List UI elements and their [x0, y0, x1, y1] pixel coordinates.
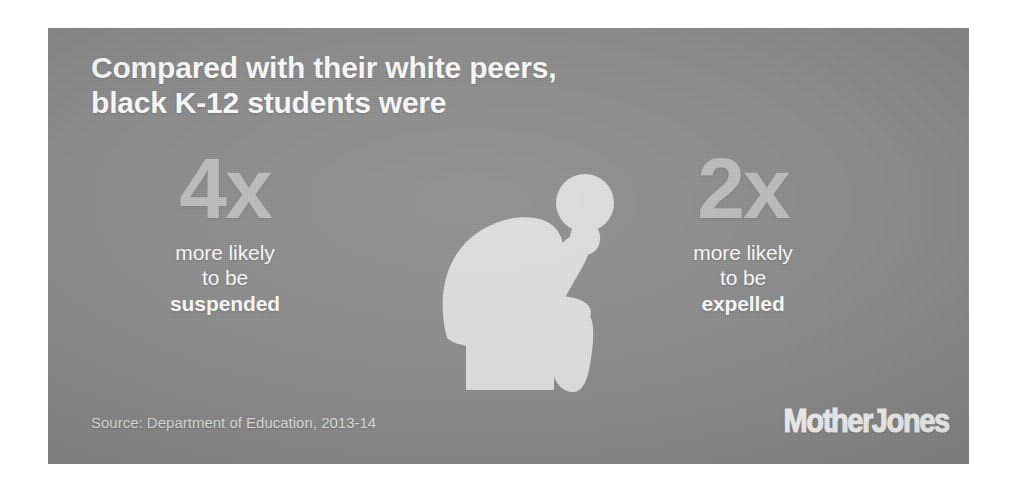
infographic-panel: Compared with their white peers, black K…: [48, 28, 969, 464]
stat-line-1-suspended: more likely: [110, 240, 340, 266]
source-caption: Source: Department of Education, 2013-14: [91, 414, 376, 431]
seated-thinking-person-graphic: [403, 138, 663, 403]
stat-line-3-suspended: suspended: [110, 291, 340, 317]
page-title: Compared with their white peers, black K…: [91, 50, 556, 120]
seated-thinking-person-icon: [403, 138, 663, 403]
infographic-canvas: Compared with their white peers, black K…: [0, 0, 1009, 490]
mother-jones-logo: MotherJones: [784, 402, 949, 440]
shin-shape: [552, 306, 594, 392]
hand-shape: [570, 222, 600, 255]
stat-block-suspended: 4x more likely to be suspended: [110, 148, 340, 317]
stat-line-2-suspended: to be: [110, 265, 340, 291]
stat-figure-suspended: 4x: [110, 148, 340, 230]
